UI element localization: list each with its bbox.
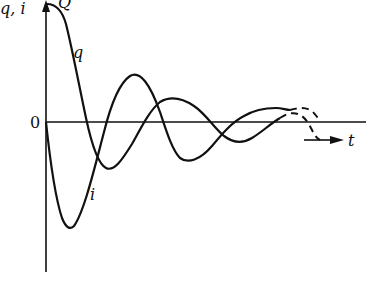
origin-label: 0 [30, 113, 40, 132]
t-arrow-icon [330, 136, 344, 144]
oscillation-figure: q, i 0 t Q q i [0, 0, 384, 297]
curve-q [47, 4, 280, 169]
curve-i-label: i [90, 185, 95, 204]
x-axis-label: t [348, 131, 355, 150]
y-axis-arrow-icon [42, 0, 50, 12]
curve-q-dashed [280, 113, 320, 140]
y-axis-label: q, i [0, 0, 26, 18]
